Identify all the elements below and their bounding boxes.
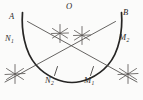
point-label-a-text: A [9,11,14,21]
point-label-m2-subscript: 2 [126,37,129,43]
compass-star-center-right [74,27,91,45]
main-arc [22,13,122,83]
point-label-n1: N1 [5,34,14,43]
point-label-n1-text: N [5,33,11,43]
point-label-m2: M2 [119,33,129,42]
point-label-m1: M1 [84,76,94,85]
point-label-n1-subscript: 1 [11,38,14,44]
geometric-construction-figure: A O B N1 M2 N2 M1 [0,0,143,100]
point-label-a: A [9,12,14,21]
point-label-n2: N2 [45,76,54,85]
arc-tick-n2 [55,67,58,76]
point-label-o: O [66,2,72,11]
point-label-o-text: O [66,1,72,11]
point-label-b: B [123,8,128,17]
point-label-n2-text: N [45,75,51,85]
point-label-b-text: B [123,7,128,17]
point-label-n2-subscript: 2 [51,80,54,86]
compass-star-center-left [52,25,69,43]
point-label-m1-subscript: 1 [91,80,94,86]
construction-drawing-svg [0,0,143,100]
